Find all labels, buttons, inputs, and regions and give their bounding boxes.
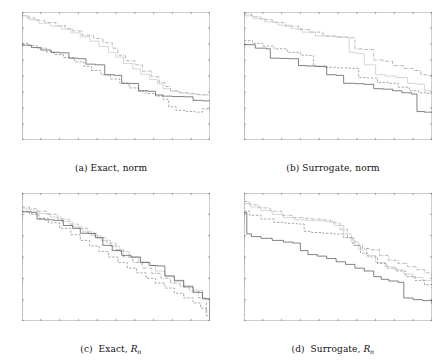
caption-b-text: (b) Surrogate, norm: [286, 163, 379, 173]
caption-c: (c) Exact, Rn: [0, 344, 222, 354]
panel-a: 0100020003000400050006000700080009000100…: [0, 0, 222, 181]
plot-area-d: 0100020003000400050006000700080009000100…: [244, 193, 432, 321]
caption-c-subscript: n: [137, 348, 141, 355]
caption-d-text: Surrogate,: [311, 344, 361, 354]
plot-area-a: 0100020003000400050006000700080009000100…: [22, 12, 210, 140]
caption-d: (d) Surrogate, Rn: [222, 344, 444, 354]
caption-b: (b) Surrogate, norm: [222, 163, 444, 173]
chart-svg-a: 0100020003000400050006000700080009000100…: [22, 12, 210, 140]
chart-svg-c: 0100020003000400050006000700080009000100…: [22, 193, 210, 321]
chart-svg-d: 0100020003000400050006000700080009000100…: [244, 193, 432, 321]
figure-grid: 0100020003000400050006000700080009000100…: [0, 0, 444, 363]
plot-area-c: 0100020003000400050006000700080009000100…: [22, 193, 210, 321]
panel-d: 0100020003000400050006000700080009000100…: [222, 181, 444, 362]
caption-d-label: (d): [292, 344, 305, 354]
panel-b: 0100020003000400050006000700080009000100…: [222, 0, 444, 181]
caption-c-text: Exact,: [99, 344, 128, 354]
panel-c: 0100020003000400050006000700080009000100…: [0, 181, 222, 362]
caption-a-text: (a) Exact, norm: [75, 163, 147, 173]
caption-d-subscript: n: [370, 348, 374, 355]
chart-svg-b: 0100020003000400050006000700080009000100…: [244, 12, 432, 140]
caption-a: (a) Exact, norm: [0, 163, 222, 173]
plot-area-b: 0100020003000400050006000700080009000100…: [244, 12, 432, 140]
caption-c-label: (c): [80, 344, 92, 354]
